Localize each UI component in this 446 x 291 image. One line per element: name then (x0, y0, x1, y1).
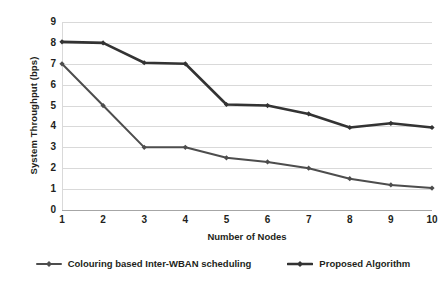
gridline (62, 106, 432, 107)
y-axis-tick-label: 2 (32, 163, 56, 173)
x-axis-tick-label: 2 (88, 214, 118, 225)
gridline (62, 126, 432, 127)
y-axis-tick-label: 3 (32, 142, 56, 152)
x-axis-tick-label: 5 (211, 214, 241, 225)
y-axis-tick-label: 8 (32, 38, 56, 48)
x-axis-tick-label: 3 (129, 214, 159, 225)
y-axis-tick-labels: 9876543210 (26, 0, 56, 291)
y-axis-tick-label: 1 (32, 184, 56, 194)
x-axis-tick-label: 1 (47, 214, 77, 225)
x-axis-tick-label: 6 (253, 214, 283, 225)
x-axis-title: Number of Nodes (62, 231, 432, 242)
plot-area (62, 22, 432, 210)
gridline (62, 147, 432, 148)
x-axis-tick-label: 10 (417, 214, 446, 225)
legend-item: Colouring based Inter-WBAN scheduling (36, 258, 252, 269)
gridline (62, 168, 432, 169)
gridline (62, 22, 432, 23)
y-axis-tick-label: 4 (32, 121, 56, 131)
chart-legend: Colouring based Inter-WBAN schedulingPro… (0, 258, 446, 269)
x-axis-tick-label: 4 (170, 214, 200, 225)
legend-item: Proposed Algorithm (287, 258, 410, 269)
x-axis-tick-label: 7 (294, 214, 324, 225)
legend-label: Colouring based Inter-WBAN scheduling (68, 258, 252, 269)
legend-swatch-icon (36, 259, 62, 269)
y-axis-tick-label: 5 (32, 101, 56, 111)
gridline (62, 85, 432, 86)
legend-label: Proposed Algorithm (319, 258, 410, 269)
gridline (62, 189, 432, 190)
x-axis-line (62, 210, 432, 211)
gridline (62, 43, 432, 44)
gridline (62, 64, 432, 65)
x-axis-tick-label: 9 (376, 214, 406, 225)
y-axis-tick-label: 9 (32, 17, 56, 27)
x-axis-tick-label: 8 (335, 214, 365, 225)
y-axis-tick-label: 6 (32, 80, 56, 90)
y-axis-tick-label: 7 (32, 59, 56, 69)
legend-swatch-icon (287, 259, 313, 269)
line-chart: System Throughput (bps) 9876543210 12345… (0, 0, 446, 291)
